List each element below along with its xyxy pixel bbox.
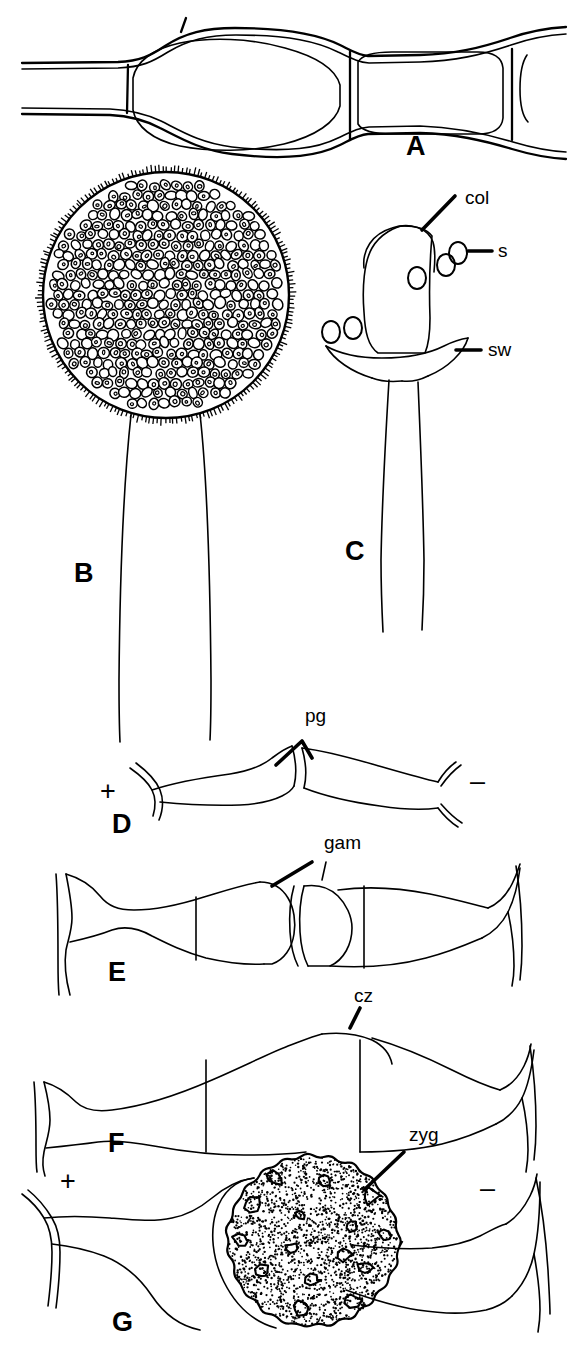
zygospore-stipple-dot <box>377 1204 379 1206</box>
sporangium-spore <box>266 250 276 260</box>
sporangium-spore <box>214 337 225 348</box>
zygospore-stipple-dot <box>249 1277 251 1279</box>
zygospore-stipple-dot <box>332 1164 334 1166</box>
zygospore-stipple-dot <box>339 1307 341 1309</box>
zygospore-stipple-dot <box>303 1171 305 1173</box>
zygospore-stipple-dot <box>320 1208 322 1210</box>
zygospore-stipple-dot <box>350 1170 352 1172</box>
zygospore-stipple-dot <box>333 1281 335 1283</box>
zygospore-stipple-dot <box>351 1279 353 1281</box>
zygospore-stipple-dot <box>283 1241 285 1243</box>
zygospore-stipple-dot <box>297 1288 299 1290</box>
zygospore-stipple-dot <box>289 1200 291 1202</box>
zygospore-stipple-dot <box>283 1279 285 1281</box>
zygospore-stipple-dot <box>323 1312 325 1314</box>
zygospore-stipple-dot <box>345 1270 347 1272</box>
zygospore-stipple-dot <box>345 1266 347 1268</box>
zygospore-stipple-dot <box>330 1221 332 1223</box>
zygospore-stipple-dot <box>333 1236 335 1238</box>
zygospore-stipple-dot <box>298 1212 300 1214</box>
zygospore-stipple-dot <box>341 1187 343 1189</box>
zygospore-stipple-dot <box>256 1279 258 1281</box>
zygospore-stipple-dot <box>349 1240 351 1242</box>
zygospore-stipple-dot <box>381 1210 383 1212</box>
zygospore-stipple-dot <box>328 1247 330 1249</box>
zygospore-stipple-dot <box>303 1158 305 1160</box>
zygospore-stipple-dot <box>352 1176 354 1178</box>
zygospore-stipple-dot <box>270 1259 272 1261</box>
columella-dome <box>364 226 435 272</box>
zygospore-stipple-dot <box>296 1293 298 1295</box>
zygospore-stipple-dot <box>348 1274 350 1276</box>
zygospore-stipple-dot <box>260 1258 262 1260</box>
zygospore-stipple-dot <box>361 1215 363 1217</box>
zygospore-stipple-dot <box>359 1207 361 1209</box>
hypha-septum-left <box>127 65 128 113</box>
zygospore-stipple-dot <box>273 1216 275 1218</box>
zygospore-stipple-dot <box>307 1279 309 1281</box>
zygospore-stipple-dot <box>230 1221 232 1223</box>
zygospore-stipple-dot <box>251 1234 253 1236</box>
zygospore-stipple-dot <box>262 1185 264 1187</box>
zygospore-stipple-dot <box>328 1265 330 1267</box>
zygospore-stipple-dot <box>236 1238 238 1240</box>
zygospore-stipple-dot <box>334 1159 336 1161</box>
sporangium-spore <box>118 387 129 397</box>
zygospore-stipple-dot <box>262 1253 264 1255</box>
zygospore-stipple-dot <box>344 1317 346 1319</box>
zygospore-stipple-dot <box>278 1288 280 1290</box>
zygospore-stipple-dot <box>377 1279 379 1281</box>
zygospore-stipple-dot <box>312 1166 314 1168</box>
zygospore-stipple-dot <box>356 1193 358 1195</box>
zygospore-stipple-dot <box>313 1313 315 1315</box>
zygospore-stipple-dot <box>235 1224 237 1226</box>
zygospore-stipple-dot <box>277 1277 279 1279</box>
spore-unit <box>154 250 164 259</box>
zygospore-stipple-dot <box>283 1204 285 1206</box>
f-right-hypha-inner <box>522 1098 528 1172</box>
spore-unit <box>103 219 113 229</box>
zygospore-stipple-dot <box>256 1292 258 1294</box>
zygospore-stipple-dot <box>368 1256 370 1258</box>
zygospore-stipple-dot <box>351 1224 354 1227</box>
zygospore-stipple-dot <box>347 1302 349 1304</box>
zygospore-stipple-dot <box>326 1282 328 1284</box>
zygospore-stipple-dot <box>342 1218 344 1220</box>
panel-b-sporangium: B <box>35 165 296 742</box>
zygospore-stipple-dot <box>346 1172 348 1174</box>
zygospore-stipple-dot <box>353 1288 355 1290</box>
zygospore-stipple-dot <box>299 1226 301 1228</box>
zygospore-stipple-dot <box>329 1260 331 1262</box>
zygospore-stipple-dot <box>313 1238 315 1240</box>
zygospore-stipple-dot <box>258 1195 260 1197</box>
spore-unit <box>260 260 271 269</box>
zygospore-stipple-dot <box>316 1170 318 1172</box>
zygospore-stipple-dot <box>326 1252 328 1254</box>
zygospore-stipple-dot <box>308 1242 310 1244</box>
zygospore-stipple-dot <box>313 1230 315 1232</box>
zygospore-stipple-dot <box>375 1231 377 1233</box>
zygospore-stipple-dot <box>354 1189 356 1191</box>
zygospore-stipple-dot <box>365 1180 367 1182</box>
zygospore-stipple-dot <box>310 1208 312 1210</box>
zygospore-stipple-dot <box>319 1284 321 1286</box>
zygospore-stipple-dot <box>264 1251 266 1253</box>
zygospore-stipple-dot <box>334 1223 336 1225</box>
zygospore-stipple-dot <box>394 1222 396 1224</box>
zygospore-stipple-dot <box>366 1266 368 1268</box>
spore-unit <box>189 208 199 220</box>
zygospore-stipple-dot <box>261 1190 263 1192</box>
residual-spore <box>437 254 455 276</box>
d-left-progametangium-upper <box>152 746 292 790</box>
zygospore-stipple-dot <box>280 1291 282 1293</box>
zygospore-stipple-dot <box>246 1277 248 1279</box>
zygospore-stipple-dot <box>336 1164 338 1166</box>
zygospore-stipple-dot <box>241 1279 243 1281</box>
zygospore-stipple-dot <box>247 1283 249 1285</box>
zygospore-stipple-dot <box>344 1274 346 1276</box>
zygospore-stipple-dot <box>342 1184 344 1186</box>
zygospore-stipple-dot <box>285 1252 287 1254</box>
zygospore-stipple-dot <box>384 1251 386 1253</box>
zygospore-stipple-dot <box>335 1240 337 1242</box>
zygospore-stipple-dot <box>395 1237 397 1239</box>
